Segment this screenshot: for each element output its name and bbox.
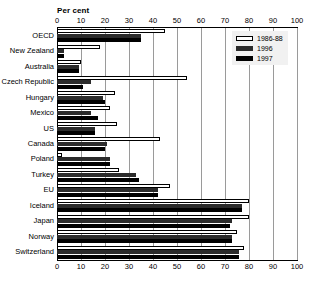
category-label-czech-republic: Czech Republic: [1, 78, 54, 86]
bar-new-zealand-1997: [57, 54, 64, 58]
bar-iceland-1986-88: [57, 199, 249, 203]
bar-us-1997: [57, 131, 95, 135]
bar-eu-1996: [57, 188, 158, 192]
legend-swatch-icon-1997: [236, 56, 253, 61]
x-tick-label-20: 20: [101, 16, 109, 25]
chart-row: Poland: [57, 152, 297, 167]
x-tick-label-100: 100: [291, 262, 304, 271]
bar-new-zealand-1996: [57, 49, 64, 53]
bar-iceland-1997: [57, 208, 242, 212]
chart-row: Norway: [57, 229, 297, 244]
legend-swatch-icon-1996: [236, 46, 253, 51]
bar-czech-republic-1986-88: [57, 76, 187, 80]
bar-canada-1986-88: [57, 137, 160, 141]
bar-hungary-1996: [57, 96, 103, 100]
bar-chart: Per cent 0102030405060708090100 01020304…: [0, 0, 312, 283]
legend-label: 1986-88: [257, 35, 283, 42]
category-label-hungary: Hungary: [26, 94, 54, 102]
category-label-switzerland: Switzerland: [15, 248, 54, 256]
x-tick-label-0: 0: [55, 16, 59, 25]
legend-item-1996[interactable]: 1996: [236, 44, 283, 52]
bar-canada-1996: [57, 142, 107, 146]
bar-hungary-1986-88: [57, 91, 115, 95]
chart-row: Hungary: [57, 90, 297, 105]
x-axis-title: Per cent: [57, 6, 89, 15]
x-tick-label-30: 30: [125, 262, 133, 271]
bar-mexico-1997: [57, 116, 98, 120]
bar-oecd-1997: [57, 38, 141, 42]
chart-row: Iceland: [57, 198, 297, 213]
category-label-norway: Norway: [29, 233, 54, 241]
bar-switzerland-1996: [57, 250, 239, 254]
x-axis-ticks-bottom: 0102030405060708090100: [57, 262, 297, 274]
x-tick-label-50: 50: [173, 16, 181, 25]
bar-japan-1997: [57, 224, 230, 228]
x-tick-label-10: 10: [77, 16, 85, 25]
category-label-mexico: Mexico: [30, 109, 54, 117]
x-tick-label-80: 80: [245, 16, 253, 25]
category-label-japan: Japan: [34, 217, 54, 225]
bar-turkey-1986-88: [57, 168, 119, 172]
figure-caption: [2, 276, 310, 283]
bar-japan-1986-88: [57, 215, 249, 219]
bar-australia-1997: [57, 69, 79, 73]
x-tick-label-60: 60: [197, 262, 205, 271]
bar-switzerland-1986-88: [57, 246, 244, 250]
chart-row: Japan: [57, 214, 297, 229]
x-tick-label-90: 90: [269, 16, 277, 25]
category-label-us: US: [44, 125, 54, 133]
x-tick-label-70: 70: [221, 262, 229, 271]
bar-australia-1996: [57, 65, 79, 69]
x-tick-label-30: 30: [125, 16, 133, 25]
x-tick-label-40: 40: [149, 262, 157, 271]
bar-eu-1986-88: [57, 184, 170, 188]
legend-item-1986-88[interactable]: 1986-88: [236, 34, 283, 42]
x-tick-label-50: 50: [173, 262, 181, 271]
category-label-canada: Canada: [28, 140, 54, 148]
category-label-australia: Australia: [25, 63, 54, 71]
bottom-axis-line: [57, 260, 298, 261]
x-tick-label-40: 40: [149, 16, 157, 25]
x-tick-label-60: 60: [197, 16, 205, 25]
bar-turkey-1997: [57, 178, 139, 182]
bar-mexico-1986-88: [57, 106, 110, 110]
bar-new-zealand-1986-88: [57, 45, 100, 49]
chart-row: Canada: [57, 136, 297, 151]
chart-row: EU: [57, 183, 297, 198]
chart-row: Mexico: [57, 105, 297, 120]
bar-switzerland-1997: [57, 255, 239, 259]
category-label-turkey: Turkey: [31, 171, 54, 179]
bar-hungary-1997: [57, 100, 105, 104]
bar-us-1996: [57, 127, 95, 131]
x-tick-label-90: 90: [269, 262, 277, 271]
bar-poland-1997: [57, 162, 110, 166]
bar-turkey-1996: [57, 173, 136, 177]
legend-item-1997[interactable]: 1997: [236, 54, 283, 62]
bar-czech-republic-1996: [57, 80, 91, 84]
gridline-100: [297, 28, 298, 260]
bar-canada-1997: [57, 147, 105, 151]
x-tick-label-100: 100: [291, 16, 304, 25]
x-tick-label-80: 80: [245, 262, 253, 271]
bar-us-1986-88: [57, 122, 117, 126]
x-tick-label-10: 10: [77, 262, 85, 271]
bar-iceland-1996: [57, 204, 242, 208]
bar-japan-1996: [57, 219, 232, 223]
chart-row: US: [57, 121, 297, 136]
legend-swatch-icon-1986-88: [236, 36, 253, 41]
bar-oecd-1996: [57, 34, 141, 38]
x-axis-ticks-top: 0102030405060708090100: [57, 16, 297, 28]
bar-australia-1986-88: [57, 60, 81, 64]
bar-eu-1997: [57, 193, 158, 197]
legend-label: 1996: [257, 45, 273, 52]
category-label-iceland: Iceland: [30, 202, 54, 210]
bar-norway-1986-88: [57, 230, 237, 234]
chart-legend: 1986-8819961997: [232, 31, 288, 65]
legend-label: 1997: [257, 55, 273, 62]
chart-row: Switzerland: [57, 245, 297, 260]
x-tick-label-0: 0: [55, 262, 59, 271]
bar-poland-1986-88: [57, 153, 62, 157]
bar-norway-1996: [57, 235, 232, 239]
chart-row: Czech Republic: [57, 74, 297, 89]
category-label-new-zealand: New Zealand: [10, 47, 54, 55]
